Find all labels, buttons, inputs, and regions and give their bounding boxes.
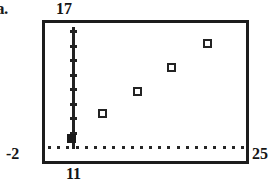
data-point-marker (67, 134, 76, 143)
x-axis-tick-dot (76, 146, 79, 149)
x-axis-tick-dot (213, 146, 216, 149)
y-axis-tick (70, 59, 77, 62)
x-axis-tick-dot (140, 146, 143, 149)
x-axis-tick-dot (57, 146, 60, 149)
x-axis-tick-dot (177, 146, 180, 149)
x-axis-tick-dot (204, 146, 207, 149)
x-axis-tick-dot (195, 146, 198, 149)
x-min-label: 11 (66, 166, 81, 182)
y-axis-tick (70, 88, 77, 91)
exercise-item-letter: a. (0, 0, 8, 17)
x-axis-tick-dot (223, 146, 226, 149)
data-point-marker (203, 39, 212, 48)
data-point-marker (133, 87, 142, 96)
y-min-label: -2 (6, 146, 19, 162)
plot-area (45, 23, 246, 161)
x-axis-tick-dot (85, 146, 88, 149)
x-axis-tick-dot (112, 146, 115, 149)
x-axis-tick-dot (167, 146, 170, 149)
x-axis-tick-dot (122, 146, 125, 149)
x-axis-tick-dot (232, 146, 235, 149)
y-axis-tick (70, 74, 77, 77)
x-axis-tick-dot (103, 146, 106, 149)
x-max-label: 25 (252, 146, 268, 162)
calculator-screen (42, 20, 249, 164)
x-axis-tick-dot (149, 146, 152, 149)
y-axis-tick (70, 117, 77, 120)
y-axis-tick (70, 30, 77, 33)
x-axis-tick-dot (241, 146, 244, 149)
x-axis-tick-dot (186, 146, 189, 149)
x-axis-tick-dot (158, 146, 161, 149)
y-max-label: 17 (56, 1, 72, 17)
data-point-marker (98, 109, 107, 118)
x-axis-tick-dot (131, 146, 134, 149)
y-axis-tick (70, 103, 77, 106)
data-point-marker (167, 63, 176, 72)
figure-container: a. 17 -2 11 25 (0, 0, 274, 186)
x-axis-tick-dot (94, 146, 97, 149)
y-axis-tick (70, 45, 77, 48)
x-axis-tick-dot (66, 146, 69, 149)
x-axis-tick-dot (48, 146, 51, 149)
